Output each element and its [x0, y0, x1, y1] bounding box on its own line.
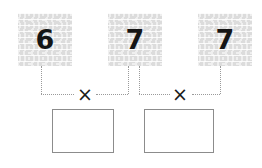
multiplication-sign-left: × — [75, 84, 95, 104]
multiplication-worksheet: 6 7 7 × × — [0, 0, 262, 168]
number-tile-6[interactable]: 6 — [18, 13, 72, 66]
connector-run-tile2-to-op2 — [139, 94, 170, 95]
connector-drop-tile1 — [41, 66, 42, 94]
tile-value-3: 7 — [216, 26, 235, 53]
connector-run-op1-to-tile2 — [96, 94, 128, 95]
connector-drop-tile3 — [220, 66, 221, 94]
connector-run-op2-to-tile3 — [192, 94, 220, 95]
answer-box-left[interactable] — [52, 109, 114, 153]
tile-value-1: 6 — [36, 26, 55, 53]
multiplication-sign-right: × — [170, 84, 190, 104]
tile-value-2: 7 — [126, 26, 145, 53]
answer-box-right[interactable] — [144, 109, 214, 153]
number-tile-7-middle[interactable]: 7 — [108, 13, 162, 66]
connector-drop-tile2-left — [128, 66, 129, 94]
number-tile-7-right[interactable]: 7 — [198, 13, 252, 66]
connector-run-tile1-to-op1 — [41, 94, 74, 95]
connector-drop-tile2-right — [139, 66, 140, 94]
